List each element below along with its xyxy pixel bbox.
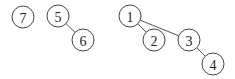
edge-1-2 [138, 24, 146, 32]
node-label: 5 [55, 10, 62, 25]
node-3: 3 [178, 29, 200, 51]
node-5: 5 [47, 5, 69, 27]
node-6: 6 [72, 29, 94, 51]
node-4: 4 [202, 53, 224, 75]
nodes: 7561234 [12, 5, 224, 75]
node-label: 4 [210, 58, 217, 73]
node-label: 3 [186, 34, 193, 49]
node-7: 7 [12, 6, 34, 28]
tree-diagram: 7561234 [0, 0, 235, 79]
node-label: 7 [20, 11, 27, 26]
node-label: 1 [127, 10, 134, 25]
edge-3-4 [197, 48, 205, 56]
node-1: 1 [119, 5, 141, 27]
node-label: 2 [151, 34, 158, 49]
node-2: 2 [143, 29, 165, 51]
edge-5-6 [66, 24, 75, 33]
node-label: 6 [80, 34, 87, 49]
